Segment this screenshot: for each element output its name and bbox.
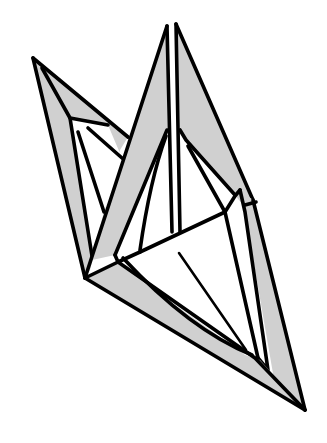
origami-diagram: origami crane model bbox=[0, 0, 327, 443]
origami-crane-figure bbox=[0, 0, 327, 443]
